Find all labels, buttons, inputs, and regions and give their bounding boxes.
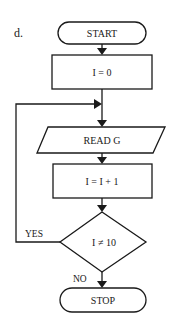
stop-node: STOP bbox=[60, 288, 146, 312]
read-node: READ G bbox=[37, 127, 165, 153]
init-node: I = 0 bbox=[52, 55, 152, 89]
start-node: START bbox=[58, 22, 146, 44]
increment-label: I = I + 1 bbox=[86, 176, 119, 187]
arrowhead-icon bbox=[94, 99, 102, 109]
decision-node: I ≠ 10 bbox=[60, 212, 146, 272]
arrowhead-icon bbox=[97, 120, 107, 127]
read-label: READ G bbox=[84, 135, 121, 146]
increment-node: I = I + 1 bbox=[53, 164, 152, 198]
no-label: NO bbox=[73, 274, 87, 284]
stop-label: STOP bbox=[91, 295, 116, 306]
figure-label: d. bbox=[14, 26, 23, 40]
yes-label: YES bbox=[25, 229, 43, 239]
arrowhead-icon bbox=[97, 48, 107, 55]
arrowhead-icon bbox=[97, 205, 107, 212]
init-label: I = 0 bbox=[93, 67, 112, 78]
arrowhead-icon bbox=[97, 157, 107, 164]
decision-label: I ≠ 10 bbox=[92, 237, 116, 248]
start-label: START bbox=[87, 28, 117, 39]
flowchart: d. START I = 0 READ G I = I + 1 I ≠ 10 Y… bbox=[0, 0, 176, 326]
arrowhead-icon bbox=[97, 281, 107, 288]
